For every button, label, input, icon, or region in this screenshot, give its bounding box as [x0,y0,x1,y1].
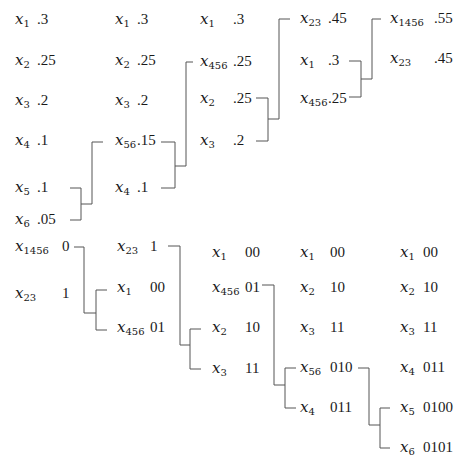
codeword-value: 01 [150,318,165,336]
symbol-label: x2 [200,89,215,112]
probability-value: .1 [137,178,148,196]
codeword-value: 1 [150,237,158,255]
codeword-value: 0 [62,237,70,255]
bracket-merge-x56-x4 [161,62,193,188]
codeword-value: 10 [330,278,345,296]
symbol-label: x3 [212,359,227,382]
symbol-label: x4 [115,178,130,201]
probability-value: .25 [328,89,347,107]
codeword-value: 10 [245,318,260,336]
codeword-value: 00 [245,243,260,261]
huffman-diagram: x1 .3 x2 .25 x3 .2 x4 .1 x5 .1 x6 .05 x1… [0,0,467,475]
probability-value: .3 [233,10,244,28]
symbol-label: x1456 [15,237,49,260]
bracket-merge-x1-x456 [349,19,381,97]
codeword-value: 00 [423,243,438,261]
symbol-label: x4 [15,131,30,154]
symbol-label: x56 [115,131,136,154]
probability-value: .3 [137,10,148,28]
codeword-value: 11 [330,318,344,336]
codeword-value: 11 [245,359,259,377]
probability-value: .2 [37,91,48,109]
symbol-label: x4 [400,358,415,381]
symbol-label: x1 [15,10,30,33]
codeword-value: 00 [150,278,165,296]
probability-value: .25 [233,89,252,107]
symbol-label: x1 [212,243,227,266]
symbol-label: x5 [15,178,30,201]
codeword-value: 00 [330,243,345,261]
symbol-label: x1 [300,51,315,74]
symbol-label: x23 [117,237,138,260]
probability-value: .25 [233,52,252,70]
probability-value: .3 [37,10,48,28]
bracket-split-x23 [168,246,201,369]
symbol-label: x6 [400,438,415,461]
probability-value: .45 [328,9,347,27]
symbol-label: x56 [300,358,321,381]
symbol-label: x456 [300,89,328,112]
symbol-label: x2 [15,51,30,74]
symbol-label: x1 [115,10,130,33]
codeword-value: 010 [330,358,353,376]
symbol-label: x2 [300,278,315,301]
probability-value: .1 [37,131,48,149]
symbol-label: x2 [400,278,415,301]
codeword-value: 011 [330,398,352,416]
symbol-label: x3 [15,91,30,114]
probability-value: .45 [434,49,453,67]
codeword-value: 10 [423,278,438,296]
symbol-label: x23 [390,49,411,72]
symbol-label: x1 [117,278,132,301]
probability-value: .15 [137,131,156,149]
symbol-label: x2 [115,51,130,74]
symbol-label: x3 [400,318,415,341]
codeword-value: 1 [62,284,70,302]
probability-value: .05 [37,210,56,228]
probability-value: .1 [37,178,48,196]
symbol-label: x1456 [390,9,424,32]
symbol-label: x3 [115,91,130,114]
symbol-label: x456 [200,52,228,75]
symbol-label: x3 [300,318,315,341]
codeword-value: 011 [423,358,445,376]
codeword-value: 01 [245,278,260,296]
bracket-split-x56 [358,368,390,448]
symbol-label: x456 [117,318,145,341]
bracket-split-x456 [262,285,296,408]
symbol-label: x1 [200,10,215,33]
symbol-label: x2 [212,318,227,341]
codeword-value: 0101 [423,438,453,456]
codeword-value: 0100 [423,398,453,416]
symbol-label: x4 [300,398,315,421]
codeword-value: 11 [423,318,437,336]
symbol-label: x23 [15,284,36,307]
probability-value: .2 [233,131,244,149]
symbol-label: x23 [300,9,321,32]
bracket-split-x1456 [74,247,107,330]
symbol-label: x6 [15,210,30,233]
bracket-merge-x2-x3 [256,19,290,141]
symbol-label: x1 [400,243,415,266]
symbol-label: x456 [212,278,240,301]
bracket-merge-x5-x6 [70,142,103,220]
probability-value: .55 [434,9,453,27]
probability-value: .3 [328,51,339,69]
probability-value: .25 [137,51,156,69]
symbol-label: x5 [400,398,415,421]
probability-value: .2 [137,91,148,109]
symbol-label: x3 [200,131,215,154]
probability-value: .25 [37,51,56,69]
symbol-label: x1 [300,243,315,266]
